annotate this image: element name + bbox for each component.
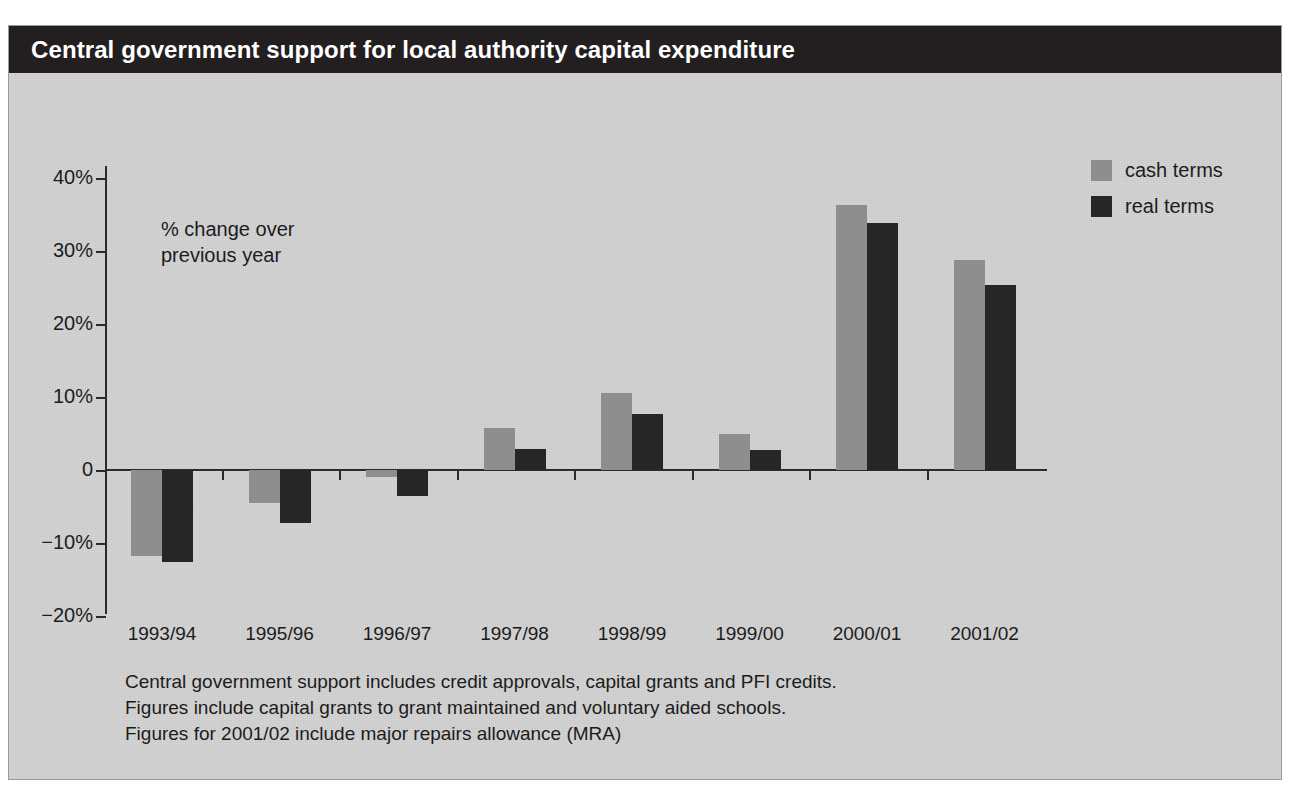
bar-1999-00-real [750, 450, 781, 470]
footnote-line: Figures include capital grants to grant … [125, 695, 837, 721]
x-axis-tick [692, 471, 694, 480]
chart-title-bar: Central government support for local aut… [9, 26, 1281, 73]
x-axis-label-2000-01: 2000/01 [833, 623, 902, 645]
y-axis-tick-label: −10% [11, 531, 93, 554]
chart-annotation: % change over previous year [161, 216, 294, 268]
bar-2000-01-real [867, 223, 898, 470]
bar-1997-98-cash [484, 428, 515, 470]
bar-1998-99-real [632, 414, 663, 470]
y-axis-tick [96, 543, 106, 545]
bar-1996-97-cash [366, 470, 397, 477]
x-axis-tick [457, 471, 459, 480]
y-axis-tick-label: 20% [11, 312, 93, 335]
page-title: Central government support for local aut… [9, 36, 795, 64]
y-axis-tick [96, 251, 106, 253]
bar-1993-94-cash [131, 470, 162, 556]
x-axis-label-1999-00: 1999/00 [715, 623, 784, 645]
bar-2000-01-cash [836, 205, 867, 470]
y-axis-tick-label: 0 [11, 458, 93, 481]
bar-1998-99-cash [601, 393, 632, 470]
bar-1995-96-real [280, 470, 311, 523]
x-axis-label-1996-97: 1996/97 [363, 623, 432, 645]
y-axis-tick [96, 178, 106, 180]
x-axis-spine [105, 469, 1047, 471]
x-axis-label-2001-02: 2001/02 [950, 623, 1019, 645]
bar-1995-96-cash [249, 470, 280, 503]
bar-1993-94-real [162, 470, 193, 562]
bar-1997-98-real [515, 449, 546, 470]
legend-swatch-real-icon [1091, 196, 1112, 217]
figure-panel: Central government support for local aut… [8, 25, 1282, 780]
chart-footnotes: Central government support includes cred… [125, 669, 837, 747]
bar-2001-02-real [985, 285, 1016, 470]
x-axis-tick [339, 471, 341, 480]
legend-label-cash: cash terms [1125, 159, 1223, 182]
x-axis-tick [574, 471, 576, 480]
x-axis-label-1995-96: 1995/96 [245, 623, 314, 645]
plot-area: 40%30%20%10%0−10%−20% 1993/941995/961996… [9, 73, 1281, 779]
chart-legend: cash terms real terms [1091, 159, 1223, 231]
y-axis-tick-label: 40% [11, 166, 93, 189]
bar-2001-02-cash [954, 260, 985, 470]
x-axis-label-1993-94: 1993/94 [128, 623, 197, 645]
legend-swatch-cash-icon [1091, 160, 1112, 181]
y-axis-tick-label: −20% [11, 604, 93, 627]
y-axis-tick [96, 324, 106, 326]
legend-item-real: real terms [1091, 195, 1223, 218]
page-root: Central government support for local aut… [0, 0, 1290, 806]
y-axis-tick [96, 616, 106, 618]
footnote-line: Figures for 2001/02 include major repair… [125, 721, 837, 747]
legend-item-cash: cash terms [1091, 159, 1223, 182]
bar-1999-00-cash [719, 434, 750, 471]
x-axis-tick [222, 471, 224, 480]
y-axis-tick-label: 10% [11, 385, 93, 408]
bar-1996-97-real [397, 470, 428, 496]
footnote-line: Central government support includes cred… [125, 669, 837, 695]
y-axis-tick [96, 470, 106, 472]
x-axis-label-1997-98: 1997/98 [480, 623, 549, 645]
x-axis-label-1998-99: 1998/99 [598, 623, 667, 645]
x-axis-tick [927, 471, 929, 480]
y-axis-spine [105, 166, 107, 614]
legend-label-real: real terms [1125, 195, 1214, 218]
y-axis-tick [96, 397, 106, 399]
y-axis-tick-label: 30% [11, 239, 93, 262]
x-axis-tick [809, 471, 811, 480]
